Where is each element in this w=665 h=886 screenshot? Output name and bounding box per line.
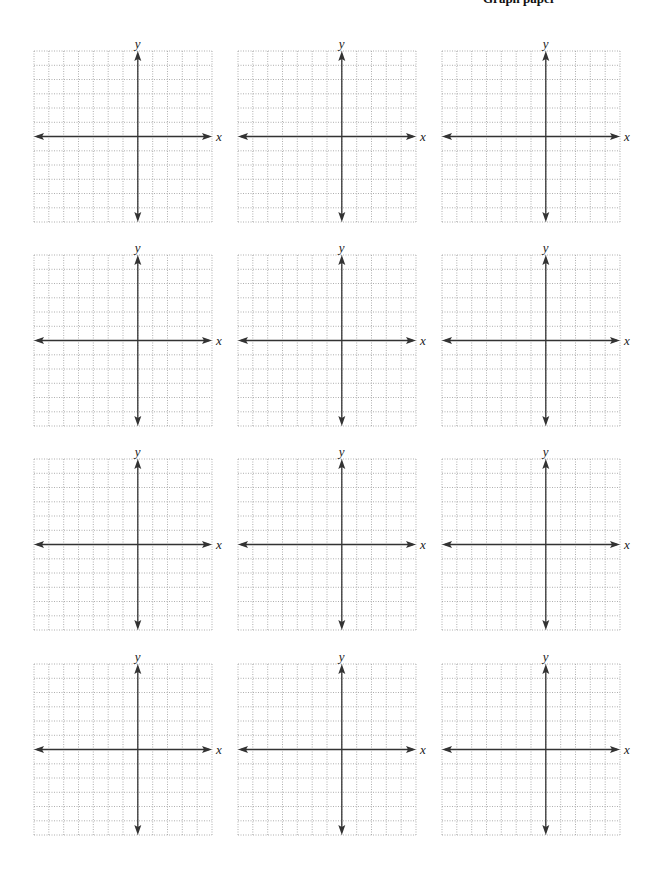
y-axis-label: y (543, 445, 549, 458)
coordinate-plane: yx (34, 255, 234, 455)
x-axis-label: x (420, 743, 426, 756)
x-axis-label: x (216, 538, 222, 551)
coordinate-plane: yx (238, 459, 438, 659)
y-axis-label: y (339, 37, 345, 50)
grid (34, 255, 212, 426)
coordinate-plane: yx (238, 51, 438, 251)
grid (34, 664, 212, 835)
grid (34, 459, 212, 630)
coordinate-plane: yx (34, 459, 234, 659)
grid (238, 664, 416, 835)
clipped-header-text: Graph paper (483, 0, 556, 7)
grid (238, 459, 416, 630)
y-axis-label: y (135, 650, 141, 663)
x-axis-label: x (420, 538, 426, 551)
grid (442, 664, 620, 835)
x-axis-label: x (624, 334, 630, 347)
x-axis-label: x (624, 743, 630, 756)
y-axis-label: y (135, 241, 141, 254)
y-axis-label: y (135, 445, 141, 458)
x-axis-label: x (420, 130, 426, 143)
grid (442, 51, 620, 222)
y-axis-label: y (339, 241, 345, 254)
coordinate-plane: yx (34, 51, 234, 251)
y-axis-label: y (543, 241, 549, 254)
x-axis-label: x (624, 130, 630, 143)
coordinate-plane: yx (442, 459, 642, 659)
y-axis-label: y (339, 650, 345, 663)
x-axis-label: x (216, 334, 222, 347)
y-axis-label: y (135, 37, 141, 50)
x-axis-label: x (216, 743, 222, 756)
x-axis-label: x (420, 334, 426, 347)
grid (238, 51, 416, 222)
grid (238, 255, 416, 426)
y-axis-label: y (543, 37, 549, 50)
grid (442, 459, 620, 630)
x-axis-label: x (624, 538, 630, 551)
coordinate-plane: yx (238, 664, 438, 864)
grid (442, 255, 620, 426)
coordinate-plane: yx (238, 255, 438, 455)
coordinate-plane: yx (442, 51, 642, 251)
grid (34, 51, 212, 222)
y-axis-label: y (543, 650, 549, 663)
x-axis-label: x (216, 130, 222, 143)
coordinate-plane: yx (442, 255, 642, 455)
coordinate-plane: yx (442, 664, 642, 864)
coordinate-plane: yx (34, 664, 234, 864)
y-axis-label: y (339, 445, 345, 458)
